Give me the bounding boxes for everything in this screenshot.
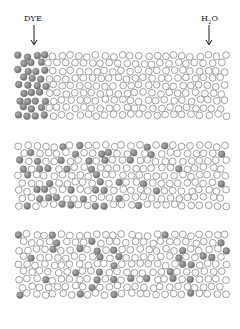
water-molecule	[180, 82, 187, 89]
water-molecule	[166, 89, 173, 96]
water-molecule	[196, 202, 203, 209]
water-molecule	[204, 96, 211, 103]
water-molecule	[118, 201, 125, 208]
water-molecule	[145, 82, 152, 89]
water-molecule	[84, 97, 91, 104]
water-molecule	[223, 52, 230, 59]
dye-molecule	[162, 232, 169, 239]
water-molecule	[80, 89, 87, 96]
water-molecule	[205, 202, 212, 209]
dye-molecule	[93, 171, 100, 178]
water-molecule	[162, 291, 169, 298]
dye-molecule	[68, 202, 75, 209]
water-molecule	[81, 164, 88, 171]
water-molecule	[79, 254, 86, 261]
water-molecule	[131, 89, 138, 96]
water-molecule	[45, 284, 52, 291]
dye-molecule	[21, 60, 28, 67]
water-molecule	[127, 97, 134, 104]
water-molecule	[72, 105, 79, 112]
water-molecule	[58, 231, 65, 238]
dye-molecule	[127, 275, 134, 282]
water-molecule	[58, 111, 65, 118]
water-molecule	[81, 149, 88, 156]
water-molecule	[123, 179, 130, 186]
water-molecule	[59, 186, 66, 193]
water-molecule	[213, 144, 220, 151]
water-molecule	[62, 59, 69, 66]
water-molecule	[67, 82, 74, 89]
water-molecule	[84, 246, 91, 253]
dye-molecule	[116, 253, 123, 260]
dye-molecule	[153, 187, 160, 194]
water-molecule	[166, 238, 173, 245]
dye-molecule	[77, 245, 84, 252]
water-molecule	[163, 201, 170, 208]
dye-molecule	[97, 178, 104, 185]
dye-molecule	[53, 240, 60, 247]
water-molecule	[144, 201, 151, 208]
water-molecule	[23, 290, 30, 297]
water-molecule	[210, 90, 217, 97]
water-molecule	[195, 81, 202, 88]
water-molecule	[97, 91, 104, 98]
water-molecule	[167, 195, 174, 202]
water-molecule	[127, 247, 134, 254]
water-molecule	[93, 142, 100, 149]
water-molecule	[127, 143, 134, 150]
water-molecule	[58, 97, 65, 104]
water-molecule	[106, 105, 113, 112]
water-molecule	[223, 261, 230, 268]
water-molecule	[221, 231, 228, 238]
water-molecule	[114, 150, 121, 157]
water-molecule	[209, 60, 216, 67]
water-molecule	[98, 75, 105, 82]
water-molecule	[103, 231, 110, 238]
water-molecule	[113, 165, 120, 172]
water-molecule	[46, 104, 53, 111]
water-molecule	[97, 105, 104, 112]
water-molecule	[144, 188, 151, 195]
water-molecule	[148, 61, 155, 68]
water-molecule	[80, 74, 87, 81]
water-molecule	[41, 232, 48, 239]
dye-molecule	[64, 166, 71, 173]
water-molecule	[54, 283, 61, 290]
water-molecule	[200, 193, 207, 200]
water-molecule	[64, 268, 71, 275]
water-molecule	[135, 98, 142, 105]
water-molecule	[205, 231, 212, 238]
dye-molecule	[53, 194, 60, 201]
water-molecule	[158, 269, 165, 276]
water-molecule	[72, 59, 79, 66]
dye-molecule	[50, 246, 57, 253]
water-molecule	[223, 113, 230, 120]
water-molecule	[221, 97, 228, 104]
water-molecule	[50, 187, 57, 194]
water-molecule	[111, 143, 118, 150]
water-molecule	[145, 260, 152, 267]
water-molecule	[148, 165, 155, 172]
dye-molecule	[20, 74, 27, 81]
water-molecule	[161, 173, 168, 180]
water-molecule	[42, 261, 49, 268]
dye-molecule	[28, 255, 35, 262]
water-molecule	[172, 231, 179, 238]
water-molecule	[192, 89, 199, 96]
dye-molecule	[188, 261, 195, 268]
water-molecule	[157, 238, 164, 245]
water-molecule	[72, 239, 79, 246]
water-molecule	[101, 67, 108, 74]
water-molecule	[68, 97, 75, 104]
water-molecule	[154, 260, 161, 267]
water-molecule	[214, 203, 221, 210]
water-molecule	[46, 254, 53, 261]
dye-molecule	[208, 254, 215, 261]
water-molecule	[136, 111, 143, 118]
water-molecule	[212, 157, 219, 164]
water-molecule	[55, 255, 62, 262]
water-molecule	[195, 186, 202, 193]
water-molecule	[40, 172, 47, 179]
water-molecule	[223, 157, 230, 164]
water-molecule	[161, 96, 168, 103]
